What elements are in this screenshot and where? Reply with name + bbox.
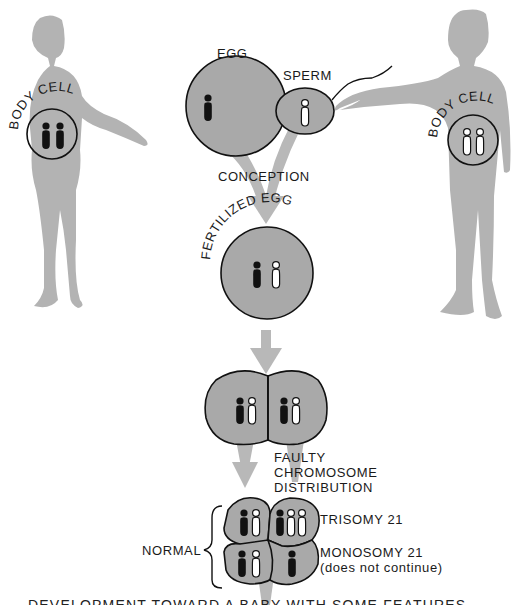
mother-silhouette [30,15,148,308]
monosomy-note: (does not continue) [320,560,443,575]
diagram-svg: BODY CELL BODY CELL EGG SPERM CONCEPTION… [0,0,525,605]
faulty-line-2: CHROMOSOME [274,465,378,480]
trisomy-label: TRISOMY 21 [320,512,403,527]
diagram-canvas: BODY CELL BODY CELL EGG SPERM CONCEPTION… [0,0,525,605]
sperm-label: SPERM [283,68,332,83]
monosomy-label: MONOSOMY 21 [320,545,443,560]
four-cell-stage [224,498,319,585]
cell-bottom-right-chromosomes [288,550,296,577]
faulty-line-1: FAULTY [274,450,378,465]
fertilized-egg [221,227,313,319]
egg-label: EGG [217,46,247,61]
two-cell-stage [205,371,327,445]
normal-brace [204,506,222,588]
bottom-caption: DEVELOPMENT TOWARD A BABY WITH SOME FEAT… [28,594,508,605]
father-silhouette [335,10,511,320]
cell-top-right-chromosomes [276,509,305,536]
normal-label: NORMAL [142,543,201,558]
conception-label: CONCEPTION [218,169,310,184]
cell-bottom-left [224,540,276,584]
faulty-distribution-label: FAULTY CHROMOSOME DISTRIBUTION [274,450,378,495]
egg-cell [186,56,286,156]
monosomy-block: MONOSOMY 21 (does not continue) [320,545,443,575]
faulty-line-3: DISTRIBUTION [274,480,378,495]
